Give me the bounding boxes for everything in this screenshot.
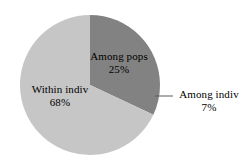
pie-label-within-indiv: Within indiv 68% xyxy=(21,83,99,108)
pie-label-among-pops-name: Among pops xyxy=(86,50,152,63)
pie-label-among-indiv-value: 7% xyxy=(171,101,247,114)
pie-label-among-indiv: Among indiv 7% xyxy=(171,88,247,113)
pie-label-among-pops-value: 25% xyxy=(86,63,152,76)
pie-chart: Among pops 25% Within indiv 68% Among in… xyxy=(0,0,249,168)
pie-label-within-indiv-value: 68% xyxy=(21,96,99,109)
pie-label-among-pops: Among pops 25% xyxy=(86,50,152,75)
pie-label-among-indiv-name: Among indiv xyxy=(171,88,247,101)
pie-label-within-indiv-name: Within indiv xyxy=(21,83,99,96)
